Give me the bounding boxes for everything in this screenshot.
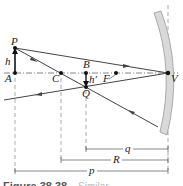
point-A: [13, 71, 17, 75]
label-p: p: [88, 164, 95, 176]
label-h-prime: h′: [89, 73, 98, 85]
label-F: F: [102, 72, 110, 84]
point-V: [166, 71, 170, 75]
label-Q: Q: [82, 87, 90, 99]
figure-caption-text: Similar: [78, 181, 109, 186]
point-C: [59, 71, 63, 75]
concave-mirror-diagram: P h A C B h′ Q F V q R p Figure 38.38 Si…: [0, 0, 183, 186]
arrow-icon: [35, 92, 42, 96]
label-q: q: [125, 142, 131, 154]
label-C: C: [52, 72, 60, 84]
label-V: V: [171, 72, 179, 84]
arrow-icon: [123, 64, 130, 68]
label-F-leader: [109, 75, 115, 79]
label-h: h: [5, 55, 11, 67]
label-B: B: [83, 58, 90, 70]
point-F: [114, 71, 118, 75]
label-A: A: [4, 72, 12, 84]
label-R: R: [112, 153, 120, 165]
point-B: [84, 71, 88, 75]
figure-caption-number: Figure 38.38: [3, 180, 67, 186]
label-P: P: [10, 35, 18, 47]
